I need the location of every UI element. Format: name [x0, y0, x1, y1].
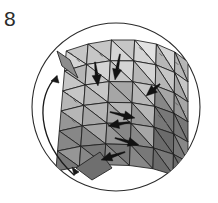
figure-drawing-canvas [0, 0, 218, 203]
figure-container: 8 [0, 0, 218, 203]
